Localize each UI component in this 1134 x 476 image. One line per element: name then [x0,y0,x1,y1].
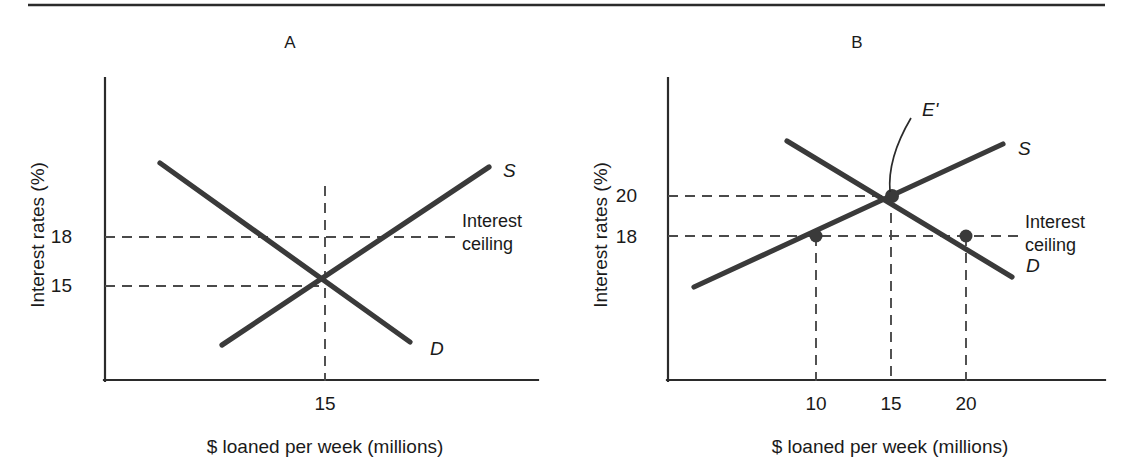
panel-b-supply-label: S [1018,138,1031,159]
panel-b-demand-curve [787,141,1012,277]
panel-a-x-axis-label: $ loaned per week (millions) [207,436,444,457]
panel-b-interest-ceiling-label-line2: ceiling [1025,235,1076,255]
panel-a-x-tick-15: 15 [314,393,335,414]
panel-b-equilibrium-label: E' [922,99,940,120]
panel-a-interest-ceiling-label-line1: Interest [462,211,522,231]
panel-a-y-tick-18: 18 [51,226,72,247]
panel-b-letter: B [851,33,862,52]
panel-a-supply-label: S [503,160,516,181]
panel-a: A Interest rates (%) $ loaned per week (… [27,33,538,457]
panel-a-y-tick-15: 15 [51,275,72,296]
panel-a-letter: A [284,33,296,52]
panel-b-interest-ceiling-label-line1: Interest [1025,212,1085,232]
panel-b-x-tick-15: 15 [880,393,901,414]
panel-a-demand-label: D [430,338,444,359]
panel-a-supply-curve [222,167,489,345]
panel-b-x-tick-20: 20 [955,393,976,414]
panel-b-x-tick-10: 10 [805,393,826,414]
panel-b-supply-curve [694,144,1003,287]
panel-b-equilibrium-leader-line [890,118,911,192]
economics-figure: A Interest rates (%) $ loaned per week (… [0,0,1134,476]
panel-b-y-tick-20: 20 [616,185,637,206]
panel-b-x-axis-label: $ loaned per week (millions) [772,436,1009,457]
panel-b-point-equilibrium [885,189,899,203]
panel-a-demand-curve [160,163,410,342]
panel-a-interest-ceiling-label-line2: ceiling [462,234,513,254]
panel-b-demand-label: D [1026,255,1040,276]
panel-b-y-axis-label: Interest rates (%) [590,162,611,308]
panel-b-point-quantity-supplied [810,230,823,243]
panel-b: B Interest rates (%) $ loaned per week (… [590,33,1105,457]
panel-b-y-tick-18: 18 [616,226,637,247]
panel-a-y-axis-label: Interest rates (%) [27,162,48,308]
panel-b-point-quantity-demanded [960,230,973,243]
